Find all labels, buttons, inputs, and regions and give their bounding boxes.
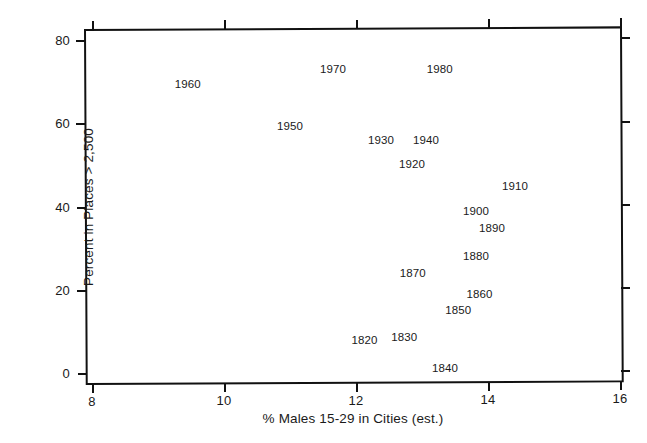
x-tick-label: 16 (613, 391, 628, 406)
x-tick-mark-top (356, 20, 358, 29)
y-tick-label: 40 (36, 199, 70, 214)
scatter-chart: 810121416020406080 182018301840185018601… (0, 0, 647, 443)
x-tick-mark (224, 383, 226, 392)
y-tick-mark (76, 40, 85, 42)
data-point-label: 1850 (445, 304, 471, 316)
data-point-label: 1870 (400, 267, 426, 279)
y-tick-mark-right (621, 37, 630, 39)
x-tick-label: 12 (349, 393, 364, 408)
y-tick-mark (76, 123, 85, 125)
data-point-label: 1950 (277, 120, 303, 132)
data-point-label: 1820 (352, 334, 378, 346)
y-tick-label: 0 (36, 366, 70, 381)
data-point-label: 1830 (391, 331, 417, 343)
data-point-label: 1980 (427, 63, 453, 75)
data-point-label: 1890 (479, 222, 505, 234)
data-point-label: 1930 (368, 134, 394, 146)
data-point-label: 1970 (320, 63, 346, 75)
x-tick-mark (92, 384, 94, 393)
x-axis-title: % Males 15-29 in Cities (est.) (263, 411, 444, 426)
y-tick-label: 60 (36, 116, 70, 131)
y-tick-label: 80 (36, 33, 70, 48)
y-tick-mark-right (621, 370, 630, 372)
x-tick-mark (620, 381, 622, 390)
data-point-label: 1840 (432, 362, 458, 374)
y-tick-label: 20 (36, 282, 70, 297)
data-point-label: 1920 (399, 158, 425, 170)
x-tick-mark (488, 382, 490, 391)
data-point-label: 1860 (466, 288, 492, 300)
x-tick-label: 8 (88, 394, 95, 409)
x-tick-mark-top (620, 18, 622, 27)
x-tick-label: 14 (481, 392, 496, 407)
y-tick-mark-right (621, 121, 630, 123)
data-point-label: 1910 (502, 180, 528, 192)
plot-frame (84, 26, 624, 385)
data-point-label: 1960 (175, 78, 201, 90)
y-tick-mark-right (621, 287, 630, 289)
x-tick-mark-top (92, 21, 94, 30)
x-tick-mark-top (224, 20, 226, 29)
y-tick-mark (77, 290, 86, 292)
x-tick-mark-top (488, 19, 490, 28)
x-tick-mark (356, 383, 358, 392)
data-point-label: 1940 (413, 134, 439, 146)
data-point-label: 1900 (463, 205, 489, 217)
y-tick-mark-right (621, 204, 630, 206)
y-axis-title: Percent in Places > 2,500 (81, 128, 96, 286)
x-tick-label: 10 (217, 393, 232, 408)
data-point-label: 1880 (463, 250, 489, 262)
y-tick-mark (78, 373, 87, 375)
